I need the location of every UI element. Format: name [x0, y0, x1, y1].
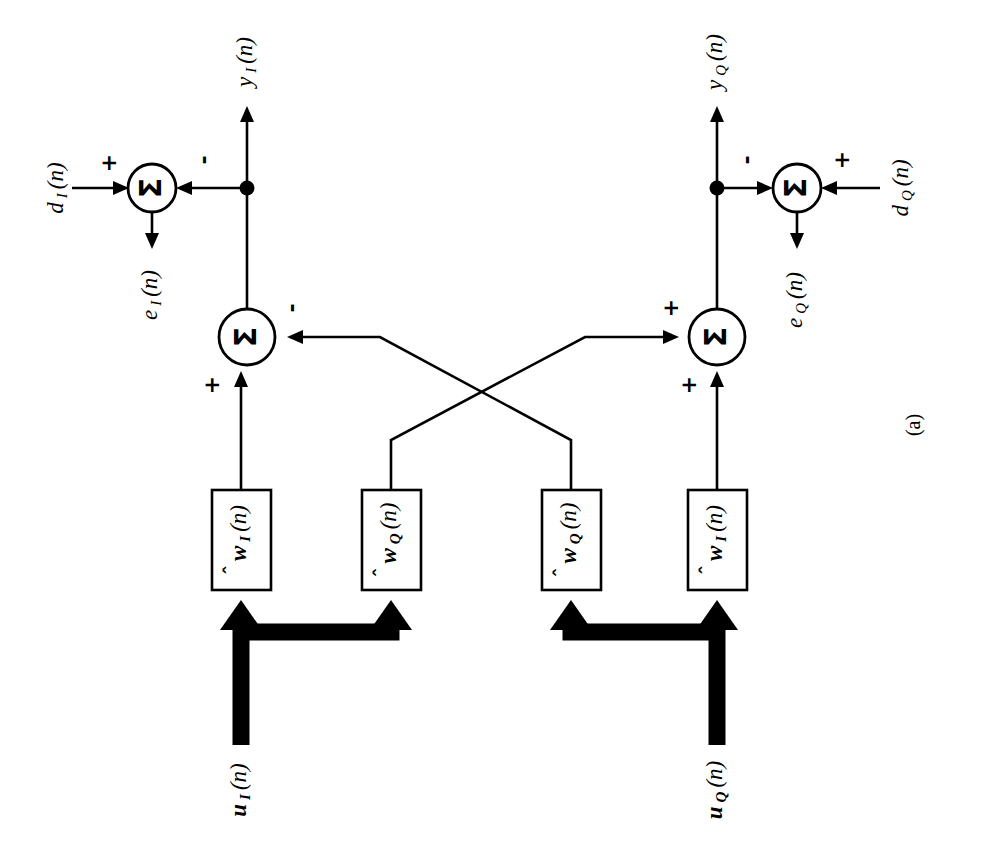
wire-y-I-feedback [176, 181, 247, 195]
e-I-sub: I [148, 300, 164, 307]
svg-text:(a): (a) [902, 414, 925, 436]
svg-text:d I (n): d I (n) [43, 162, 70, 213]
hat-glyph-w-Q-left: ˆ [369, 568, 393, 578]
d-Q-sub: Q [899, 190, 915, 201]
d-I-arg: (n) [43, 162, 68, 189]
wire-wI-right-to-adder-Q [710, 371, 724, 490]
junction-dot-y-Q [710, 181, 725, 196]
figure-root: Σ Σ [0, 0, 999, 843]
sigma-glyph-error-Q: Σ [778, 178, 813, 199]
sign-label-err-I-plus: + [96, 154, 121, 172]
y-I-arg: (n) [232, 37, 257, 64]
hat-glyph-w-I-left: ˆ [219, 565, 243, 575]
y-I-base: y [232, 76, 257, 89]
filter-block-w-Q-right: ˆ w Q (n) [542, 490, 601, 590]
svg-text:y I (n): y I (n) [232, 37, 259, 89]
filter-block-w-I-right: ˆ w I (n) [688, 490, 747, 590]
d-I-base: d [43, 202, 68, 214]
d-Q-arg: (n) [888, 159, 913, 186]
block-diagram-canvas: Σ Σ [0, 0, 999, 843]
sign-label-out-Q-plus-cross: + [658, 299, 683, 317]
filter-block-w-Q-left: ˆ w Q (n) [362, 490, 421, 590]
block-label-base-w-Q-left: w [376, 548, 401, 564]
block-label-sub-w-Q-left: Q [387, 533, 403, 544]
wire-e-Q-output [790, 212, 804, 249]
svg-text:-: - [191, 155, 216, 164]
adder-output-I: Σ [219, 309, 275, 365]
y-Q-arg: (n) [702, 34, 727, 61]
block-label-arg-w-I-right: (n) [702, 505, 727, 532]
wire-e-I-output [145, 212, 159, 249]
u-I-sub: I [237, 793, 253, 801]
signal-label-u-I: u I (n) [226, 763, 253, 816]
y-Q-base: y [702, 79, 727, 92]
u-Q-arg: (n) [702, 761, 727, 788]
block-label-arg-w-Q-right: (n) [556, 502, 581, 529]
sigma-glyph-output-Q: Σ [698, 327, 733, 348]
block-label-arg-w-Q-left: (n) [376, 502, 401, 529]
svg-text:-: - [734, 155, 759, 164]
wire-d-I-input [72, 181, 129, 195]
figure-caption: (a) [902, 414, 925, 436]
svg-text:e I (n): e I (n) [137, 270, 164, 320]
wire-cross-to-adder-I [287, 330, 571, 490]
wire-wI-to-adder-I [234, 371, 248, 490]
hat-glyph-w-Q-right: ˆ [549, 568, 573, 578]
svg-text:u Q (n): u Q (n) [702, 761, 729, 819]
sign-label-err-Q-minus: - [734, 155, 759, 164]
d-Q-base: d [888, 205, 913, 217]
wire-d-Q-input [821, 181, 880, 195]
block-label-base-w-Q-right: w [556, 548, 581, 564]
svg-text:-: - [279, 303, 304, 312]
y-I-sub: I [243, 67, 259, 74]
svg-text:u I (n): u I (n) [226, 763, 253, 816]
sigma-glyph-error-I: Σ [133, 178, 168, 199]
bus-u-Q [550, 600, 738, 745]
signal-label-d-I: d I (n) [43, 162, 70, 213]
y-Q-sub: Q [713, 65, 729, 76]
block-label-base-w-I-right: w [702, 545, 727, 561]
wire-y-Q-feedback [717, 181, 773, 195]
sign-label-err-Q-plus: + [829, 151, 854, 169]
signal-label-d-Q: d Q (n) [888, 159, 915, 216]
sign-label-out-Q-plus-vert: + [676, 376, 701, 394]
signal-label-u-Q: u Q (n) [702, 761, 729, 819]
wire-cross-from-wQ-left [391, 330, 679, 490]
e-Q-base: e [782, 318, 807, 328]
svg-text:+: + [676, 376, 701, 394]
block-label-arg-w-I-left: (n) [226, 505, 251, 532]
u-I-arg: (n) [226, 763, 251, 790]
e-I-base: e [137, 310, 162, 320]
signal-label-y-Q: y Q (n) [702, 34, 729, 92]
block-label-sub-w-I-right: I [713, 535, 729, 543]
bus-u-I [220, 600, 412, 745]
u-Q-sub: Q [713, 791, 729, 802]
sigma-glyph-output-I: Σ [228, 327, 263, 348]
wire-y-Q-trunk [710, 106, 725, 310]
svg-text:y Q (n): y Q (n) [702, 34, 729, 92]
adder-error-I: Σ [128, 164, 176, 212]
filter-block-w-I-left: ˆ w I (n) [212, 490, 271, 590]
svg-text:d Q (n): d Q (n) [888, 159, 915, 216]
e-I-arg: (n) [137, 270, 162, 297]
adder-output-Q: Σ [689, 309, 745, 365]
u-Q-base: u [702, 806, 727, 819]
svg-text:+: + [96, 154, 121, 172]
block-label-sub-w-I-left: I [237, 535, 253, 543]
svg-text:+: + [199, 376, 224, 394]
d-I-sub: I [54, 192, 70, 199]
hat-glyph-w-I-right: ˆ [695, 565, 719, 575]
junction-dot-y-I [240, 181, 255, 196]
adder-error-Q: Σ [773, 164, 821, 212]
signal-label-e-I: e I (n) [137, 270, 164, 320]
sign-label-err-I-minus: - [191, 155, 216, 164]
block-label-sub-w-Q-right: Q [567, 533, 583, 544]
block-label-base-w-I-left: w [226, 545, 251, 561]
svg-text:+: + [658, 299, 683, 317]
svg-text:e Q (n): e Q (n) [782, 272, 809, 328]
u-I-base: u [226, 804, 251, 817]
sign-label-out-I-plus: + [199, 376, 224, 394]
signal-label-e-Q: e Q (n) [782, 272, 809, 328]
sign-label-out-I-minus: - [279, 303, 304, 312]
e-Q-arg: (n) [782, 272, 807, 299]
